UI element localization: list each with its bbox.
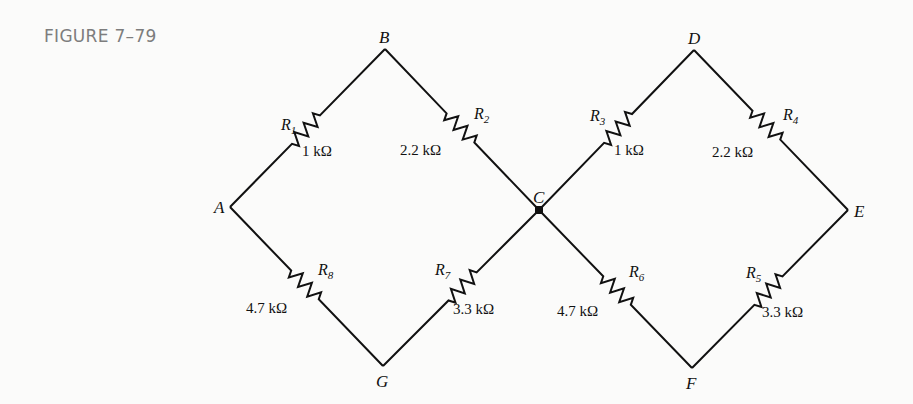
resistor-r5 bbox=[692, 210, 848, 368]
resistor-r6-label: R6 bbox=[628, 263, 645, 283]
resistor-r3 bbox=[539, 50, 694, 210]
resistor-r1-value: 1 kΩ bbox=[302, 143, 332, 159]
resistor-r8-label: R8 bbox=[317, 261, 334, 281]
node-c-label: C bbox=[533, 188, 545, 207]
node-f-label: F bbox=[685, 374, 697, 393]
wires bbox=[230, 49, 848, 368]
resistor-r7-label: R7 bbox=[434, 261, 451, 281]
resistor-r1-label: R1 bbox=[280, 116, 296, 136]
resistor-r4-value: 2.2 kΩ bbox=[712, 144, 753, 160]
resistor-r6 bbox=[539, 210, 692, 368]
resistor-r7-value: 3.3 kΩ bbox=[453, 301, 494, 317]
resistor-r4-label: R4 bbox=[782, 106, 799, 126]
resistor-r7 bbox=[383, 210, 539, 366]
resistor-r5-value: 3.3 kΩ bbox=[762, 304, 803, 320]
resistor-r6-value: 4.7 kΩ bbox=[557, 303, 598, 319]
resistor-r5-label: R5 bbox=[745, 264, 762, 284]
resistor-r8 bbox=[230, 207, 383, 366]
node-a-label: A bbox=[213, 198, 225, 217]
resistor-r2 bbox=[385, 49, 539, 210]
junction-dot bbox=[535, 206, 543, 214]
node-b-label: B bbox=[379, 28, 390, 47]
resistor-r2-label: R2 bbox=[473, 105, 490, 125]
resistor-r4 bbox=[694, 50, 848, 210]
circuit-diagram: R11 kΩR22.2 kΩR31 kΩR42.2 kΩR53.3 kΩR64.… bbox=[0, 0, 913, 404]
resistor-r3-value: 1 kΩ bbox=[614, 142, 644, 158]
resistor-r8-value: 4.7 kΩ bbox=[246, 300, 287, 316]
resistor-r3-label: R3 bbox=[589, 107, 606, 127]
resistor-r2-value: 2.2 kΩ bbox=[400, 142, 441, 158]
node-e-label: E bbox=[853, 202, 865, 221]
node-d-label: D bbox=[687, 29, 701, 48]
node-g-label: G bbox=[376, 372, 388, 391]
resistor-r1 bbox=[230, 49, 385, 207]
